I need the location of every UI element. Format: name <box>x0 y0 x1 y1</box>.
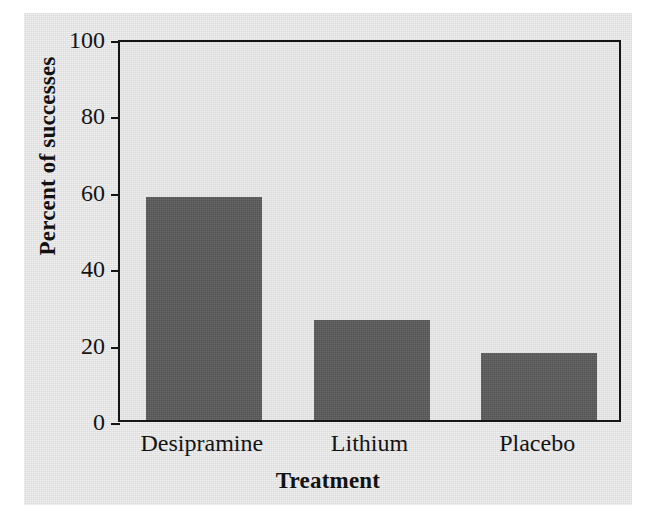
x-axis-tick-label: Lithium <box>286 431 454 455</box>
y-axis-tick-label: 80 <box>81 104 105 128</box>
y-axis-tick-label: 0 <box>93 410 105 434</box>
x-axis-title: Treatment <box>24 468 632 494</box>
y-axis-tick-mark <box>111 41 120 43</box>
y-axis-tick-mark <box>111 194 120 196</box>
bar-lithium[interactable] <box>314 320 430 420</box>
y-axis-tick-label: 100 <box>69 28 105 52</box>
y-axis-tick-mark <box>111 347 120 349</box>
y-axis-tick-label: 60 <box>81 181 105 205</box>
y-axis-title: Percent of successes <box>35 26 61 286</box>
y-axis-tick-mark <box>111 117 120 119</box>
y-axis-tick-label: 20 <box>81 334 105 358</box>
x-axis-tick-label: Placebo <box>453 431 621 455</box>
x-axis-tick-label: Desipramine <box>118 431 286 455</box>
y-axis-tick-mark <box>111 270 120 272</box>
y-axis-tick-label: 40 <box>81 257 105 281</box>
bar-desipramine[interactable] <box>146 197 262 420</box>
plot-area <box>118 40 621 422</box>
bar-placebo[interactable] <box>481 353 597 420</box>
y-axis-tick-mark <box>111 423 120 425</box>
figure-panel: 100806040200 Percent of successes Desipr… <box>24 13 632 505</box>
